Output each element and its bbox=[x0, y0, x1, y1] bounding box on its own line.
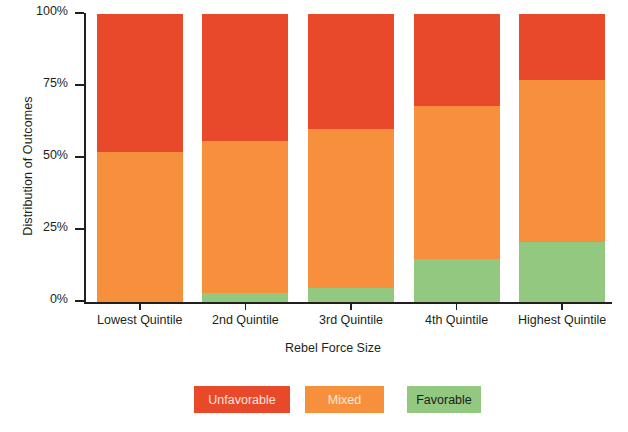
legend-item-favorable[interactable]: Favorable bbox=[407, 386, 481, 413]
chart-legend: UnfavorableMixedFavorable bbox=[0, 386, 628, 414]
footnote bbox=[0, 424, 628, 432]
bar-segment-favorable bbox=[414, 259, 500, 302]
legend-item-unfavorable[interactable]: Unfavorable bbox=[194, 386, 290, 413]
bar-segment-mixed bbox=[308, 129, 394, 287]
x-tick-label-1: Lowest Quintile bbox=[97, 313, 182, 327]
bar-segment-unfavorable bbox=[414, 14, 500, 106]
bar-segment-favorable bbox=[308, 288, 394, 302]
x-tick bbox=[350, 302, 352, 310]
x-tick-label-2: 2nd Quintile bbox=[212, 313, 279, 327]
bar-segment-favorable bbox=[202, 293, 288, 302]
y-tick-label: 75% bbox=[43, 76, 68, 90]
legend-label-mixed: Mixed bbox=[328, 393, 361, 407]
x-axis-title-text: Rebel Force Size bbox=[285, 341, 381, 355]
x-tick bbox=[139, 302, 141, 310]
y-tick: 100% bbox=[75, 12, 84, 14]
y-tick-label: 50% bbox=[43, 148, 68, 162]
y-tick: 75% bbox=[75, 84, 84, 86]
y-tick-label: 25% bbox=[43, 220, 68, 234]
y-tick: 25% bbox=[75, 228, 84, 230]
y-tick: 0% bbox=[75, 300, 84, 302]
bar-segment-mixed bbox=[97, 152, 183, 302]
y-tick: 50% bbox=[75, 156, 84, 158]
x-axis-title: Rebel Force Size bbox=[0, 341, 628, 355]
bar-3 bbox=[308, 14, 394, 302]
bar-5 bbox=[519, 14, 605, 302]
bar-1 bbox=[97, 14, 183, 302]
y-tick-label: 100% bbox=[36, 4, 68, 18]
chart-figure: Distribution of Outcomes 0%25%50%75%100%… bbox=[0, 0, 628, 432]
bar-segment-unfavorable bbox=[202, 14, 288, 141]
bar-segment-favorable bbox=[519, 242, 605, 302]
bar-segment-mixed bbox=[414, 106, 500, 259]
y-axis-title: Distribution of Outcomes bbox=[21, 41, 35, 291]
x-tick-label-5: Highest Quintile bbox=[518, 313, 606, 327]
x-axis-line bbox=[84, 302, 612, 304]
x-tick-label-4: 4th Quintile bbox=[425, 313, 488, 327]
x-tick bbox=[561, 302, 563, 310]
bar-4 bbox=[414, 14, 500, 302]
bar-segment-unfavorable bbox=[308, 14, 394, 129]
legend-item-mixed[interactable]: Mixed bbox=[305, 386, 384, 413]
bar-segment-unfavorable bbox=[519, 14, 605, 80]
bar-2 bbox=[202, 14, 288, 302]
x-tick bbox=[456, 302, 458, 310]
x-tick-label-3: 3rd Quintile bbox=[319, 313, 383, 327]
x-tick bbox=[245, 302, 247, 310]
y-tick-label: 0% bbox=[50, 292, 68, 306]
bar-segment-unfavorable bbox=[97, 14, 183, 152]
plot-area: 0%25%50%75%100% bbox=[84, 14, 612, 302]
legend-label-favorable: Favorable bbox=[416, 393, 472, 407]
legend-label-unfavorable: Unfavorable bbox=[208, 393, 275, 407]
bar-segment-mixed bbox=[202, 141, 288, 294]
bar-segment-mixed bbox=[519, 80, 605, 241]
